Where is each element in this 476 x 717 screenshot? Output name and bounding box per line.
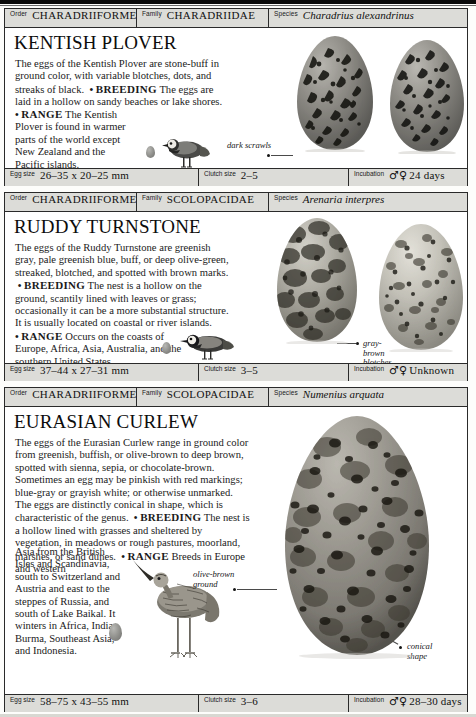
species-value: Charadrius alexandrinus <box>303 9 414 21</box>
scale-egg-indicator <box>162 342 171 354</box>
sex-symbols-icon: ♂♀ <box>389 695 407 708</box>
callout-line-1: dark scrawls <box>227 141 271 151</box>
species-label: Species <box>274 389 298 396</box>
intro-text: The eggs of the Ruddy Turnstone are gree… <box>15 242 229 278</box>
egg-size-value: 37–44 x 27–31 mm <box>40 364 129 376</box>
order-value: CHARADRIIFORMES <box>32 193 136 205</box>
clutch-size-label: Clutch size <box>204 365 236 372</box>
entry-copy: The eggs of the Ruddy Turnstone are gree… <box>15 242 233 330</box>
sex-symbols-icon: ♂♀ <box>389 364 407 377</box>
incubation-value: 24 days <box>409 169 444 181</box>
egg-photo-2 <box>386 38 468 154</box>
species-cell: Species Numenius arquata <box>269 388 468 406</box>
family-label: Family <box>142 389 162 396</box>
order-cell: Order CHARADRIIFORMES <box>5 9 136 27</box>
order-cell: Order CHARADRIIFORMES <box>5 193 136 211</box>
order-label: Order <box>10 194 27 201</box>
egg-size-value: 26–35 x 20–25 mm <box>40 169 129 181</box>
entry-copy: The eggs of the Kentish Plover are stone… <box>15 58 223 109</box>
family-value: SCOLOPACIDAE <box>167 193 255 205</box>
order-label: Order <box>10 389 27 396</box>
measurements-bar: Egg size 37–44 x 27–31 mm Clutch size 3–… <box>5 363 467 381</box>
family-label: Family <box>142 10 162 17</box>
order-label: Order <box>10 10 27 17</box>
clutch-size-cell: Clutch size 3–6 <box>199 695 348 712</box>
species-value: Numenius arquata <box>303 388 384 400</box>
clutch-size-label: Clutch size <box>204 696 236 703</box>
range-heading: RANGE <box>21 108 62 120</box>
sex-symbols-icon: ♂♀ <box>389 169 407 182</box>
incubation-value: 28–30 days <box>409 695 461 707</box>
egg-size-label: Egg size <box>10 696 35 703</box>
entry-body: KENTISH PLOVER The eggs of the Kentish P… <box>5 28 467 168</box>
clutch-size-cell: Clutch size 3–5 <box>199 364 348 381</box>
callout-leader <box>271 155 293 156</box>
breeding-heading: BREEDING <box>24 279 85 291</box>
callout-dot <box>267 154 270 157</box>
entry-body: RUDDY TURNSTONE The eggs of the Ruddy Tu… <box>5 212 467 363</box>
range-text-narrow: Asia from the British Isles and Scandina… <box>15 546 120 656</box>
incubation-value: Unknown <box>409 364 454 376</box>
species-entry-ruddy-turnstone: Order CHARADRIIFORMES Family SCOLOPACIDA… <box>4 192 468 381</box>
incubation-label: Incubation <box>354 696 384 703</box>
egg-photo-1 <box>273 216 361 344</box>
family-value: CHARADRIIDAE <box>167 9 256 21</box>
callout-olive-brown-ground: olive-brown ground <box>193 570 234 589</box>
taxonomy-bar: Order CHARADRIIFORMES Family SCOLOPACIDA… <box>5 388 467 407</box>
order-value: CHARADRIIFORMES <box>32 9 136 21</box>
callout-line-2: ground <box>193 580 234 590</box>
species-label: Species <box>274 194 298 201</box>
page-top-hairline <box>0 5 476 6</box>
egg-photo-1 <box>269 413 445 659</box>
clutch-size-value: 3–6 <box>241 695 258 707</box>
species-value: Arenaria interpres <box>303 193 384 205</box>
egg-size-cell: Egg size 37–44 x 27–31 mm <box>5 364 198 381</box>
egg-size-label: Egg size <box>10 170 35 177</box>
incubation-label: Incubation <box>354 170 384 177</box>
egg-size-label: Egg size <box>10 365 35 372</box>
bullet-breeding: • <box>131 512 140 523</box>
family-cell: Family SCOLOPACIDAE <box>137 388 268 406</box>
species-cell: Species Arenaria interpres <box>269 193 468 211</box>
species-entry-kentish-plover: Order CHARADRIIFORMES Family CHARADRIIDA… <box>4 8 468 186</box>
measurements-bar: Egg size 58–75 x 43–55 mm Clutch size 3–… <box>5 694 467 712</box>
scale-egg-indicator <box>146 146 155 158</box>
taxonomy-bar: Order CHARADRIIFORMES Family SCOLOPACIDA… <box>5 193 467 212</box>
species-cell: Species Charadrius alexandrinus <box>269 9 468 27</box>
order-cell: Order CHARADRIIFORMES <box>5 388 136 406</box>
taxonomy-bar: Order CHARADRIIFORMES Family CHARADRIIDA… <box>5 9 467 28</box>
clutch-size-cell: Clutch size 2–5 <box>199 169 348 186</box>
range-heading: RANGE <box>21 330 62 342</box>
page-title: RUDDY TURNSTONE <box>14 216 201 238</box>
egg-photo-2 <box>375 222 467 352</box>
incubation-cell: Incubation ♂♀ 24 days <box>349 169 468 186</box>
family-value: SCOLOPACIDAE <box>167 388 255 400</box>
egg-size-value: 58–75 x 43–55 mm <box>40 695 129 707</box>
incubation-cell: Incubation ♂♀ Unknown <box>349 364 468 381</box>
breeding-heading: BREEDING <box>140 511 201 523</box>
incubation-label: Incubation <box>354 365 384 372</box>
entry-copy-range: • RANGE The Kentish Plover is found in w… <box>15 108 137 171</box>
family-cell: Family SCOLOPACIDAE <box>137 193 268 211</box>
page-top-rule <box>0 0 476 4</box>
egg-size-cell: Egg size 58–75 x 43–55 mm <box>5 695 198 712</box>
order-value: CHARADRIIFORMES <box>32 388 136 400</box>
measurements-bar: Egg size 26–35 x 20–25 mm Clutch size 2–… <box>5 168 467 186</box>
egg-size-cell: Egg size 26–35 x 20–25 mm <box>5 169 198 186</box>
egg-photo-1 <box>293 34 377 152</box>
guide-page: Order CHARADRIIFORMES Family CHARADRIIDA… <box>0 0 476 717</box>
clutch-size-value: 2–5 <box>241 169 258 181</box>
entry-copy-range-narrow: Asia from the British Isles and Scandina… <box>15 546 125 658</box>
callout-dark-scrawls: dark scrawls <box>227 141 271 151</box>
intro-text: The eggs of the Eurasian Curlew range in… <box>15 437 248 523</box>
species-entry-eurasian-curlew: Order CHARADRIIFORMES Family SCOLOPACIDA… <box>4 387 468 712</box>
callout-dot-ground <box>233 588 236 591</box>
species-label: Species <box>274 10 298 17</box>
clutch-size-value: 3–5 <box>241 364 258 376</box>
family-label: Family <box>142 194 162 201</box>
clutch-size-label: Clutch size <box>204 170 236 177</box>
page-title: EURASIAN CURLEW <box>14 411 198 433</box>
incubation-cell: Incubation ♂♀ 28–30 days <box>349 695 468 712</box>
bullet-breeding: • <box>15 280 24 291</box>
breeding-heading: BREEDING <box>96 83 157 95</box>
